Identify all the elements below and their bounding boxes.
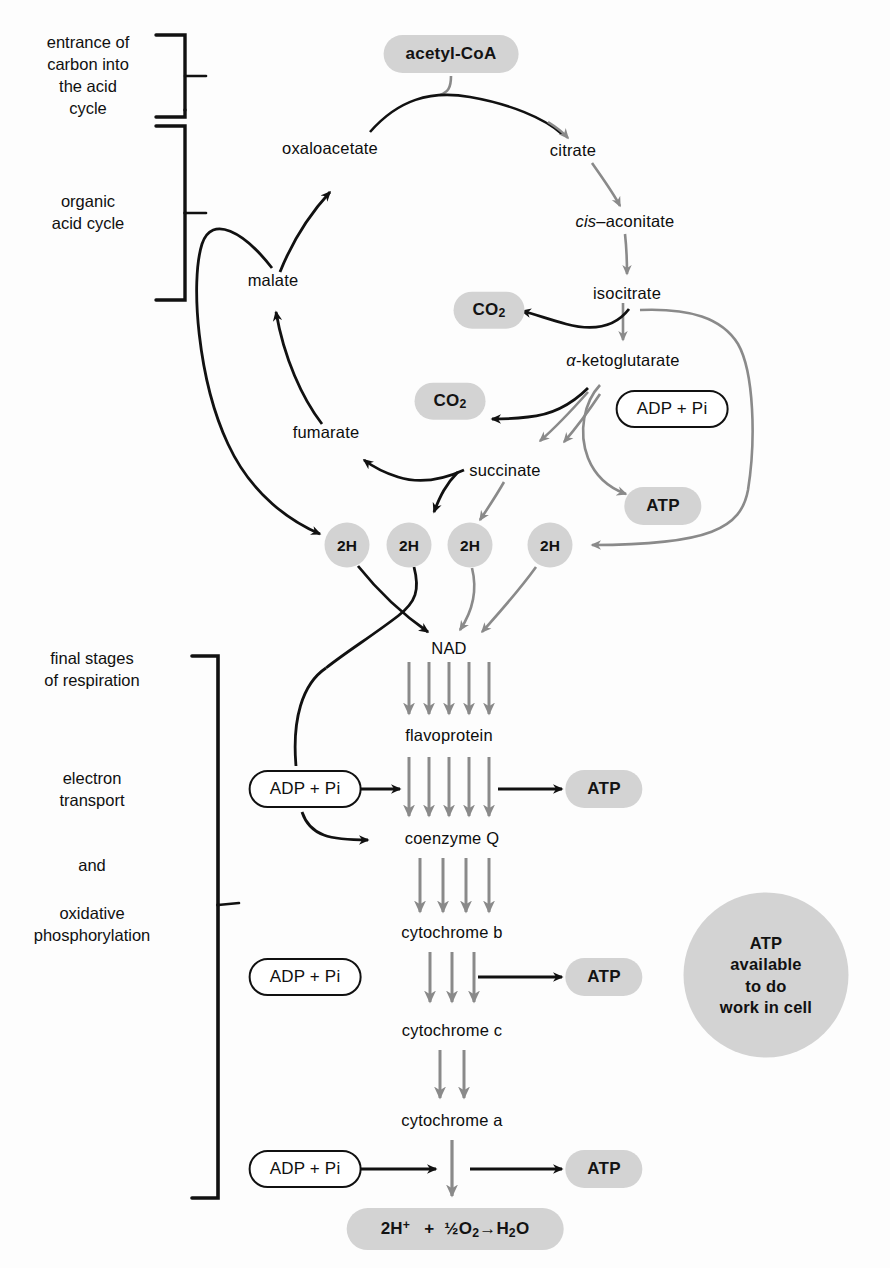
flavoprotein-label: flavoprotein	[405, 726, 493, 745]
cytochrome-b-label: cytochrome b	[401, 923, 502, 942]
cytochrome-c-label: cytochrome c	[402, 1021, 503, 1040]
citrate-label: citrate	[550, 141, 596, 160]
co2-lower-pill: CO2	[415, 383, 486, 420]
co2-lower-text: CO	[434, 391, 460, 410]
caption-electron-transport: electron transport	[59, 768, 124, 812]
cis-aconitate-label: cis–aconitate	[576, 212, 675, 231]
atp-pool-line-4: work in cell	[720, 996, 812, 1017]
h1-to-nad-arrow	[358, 566, 428, 632]
hydrogen-circle-1: 2H	[325, 523, 370, 568]
coq-to-cytb-arrows	[420, 858, 489, 912]
cycle-adp-pi-pill: ADP + Pi	[616, 390, 729, 428]
succinate-label: succinate	[469, 461, 541, 480]
cycle-atp-pill: ATP	[624, 487, 701, 525]
h2-tail-to-adp	[295, 668, 326, 766]
hydrogen-circle-3: 2H	[448, 523, 493, 568]
final-reaction-pill: 2H++½O2→H2O	[347, 1208, 564, 1250]
cisaconitate-to-isocitrate-arrow	[625, 234, 627, 274]
atp-pill-1: ATP	[565, 770, 642, 808]
h2-to-chain-arrow	[326, 567, 417, 668]
cytb-to-cytc-arrows	[430, 952, 474, 1002]
bracket-organic	[156, 126, 206, 300]
diagram-canvas: entrance of carbon into the acid cycle o…	[0, 0, 890, 1268]
caption-organic-acid-cycle: organic acid cycle	[52, 191, 124, 235]
oxaloacetate-to-citrate-arrow	[370, 95, 562, 134]
malate-label: malate	[248, 271, 299, 290]
atp-pill-2: ATP	[565, 958, 642, 996]
flavoprotein-to-coq-arrows	[409, 757, 489, 816]
bracket-final-stages	[192, 656, 239, 1198]
co2-upper-sub: 2	[498, 306, 505, 320]
cytochrome-a-label: cytochrome a	[401, 1111, 502, 1130]
hydrogen-circle-4: 2H	[528, 523, 573, 568]
ketoglutarate-to-succinate-arrow-a	[540, 392, 588, 441]
coenzyme-q-label: coenzyme Q	[405, 829, 500, 848]
final-h2o-o: O	[516, 1219, 529, 1238]
malate-to-oxaloacetate-arrow	[280, 192, 330, 272]
caption-final-stages: final stages of respiration	[44, 648, 139, 692]
nad-to-flavoprotein-arrows	[409, 662, 489, 714]
to-citrate-head	[548, 122, 568, 138]
alpha-symbol: α	[566, 351, 576, 369]
citrate-to-cisaconitate-arrow	[592, 163, 620, 206]
adp-pi-pill-1: ADP + Pi	[249, 770, 362, 808]
alpha-ketoglutarate-label: α-ketoglutarate	[566, 351, 679, 370]
bracket-entrance	[156, 35, 206, 117]
caption-entrance-of-carbon: entrance of carbon into the acid cycle	[47, 32, 130, 120]
atp-pill-3: ATP	[565, 1150, 642, 1188]
final-arrow: →	[479, 1219, 496, 1238]
acetylcoa-to-cycle-line	[440, 76, 451, 95]
co2-upper-text: CO	[473, 300, 499, 319]
adp1-to-coq-arrow	[302, 812, 368, 840]
isocitrate-label: isocitrate	[593, 284, 661, 303]
co2-lower-sub: 2	[459, 397, 466, 411]
ketoglutarate-suffix: -ketoglutarate	[576, 351, 680, 369]
caption-oxidative-phosphorylation: oxidative phosphorylation	[34, 903, 151, 947]
acetyl-coa-pill: acetyl-CoA	[384, 35, 519, 73]
final-h-count: 2H	[381, 1219, 403, 1238]
nad-label: NAD	[431, 639, 466, 658]
atp-pool-line-2: available	[730, 954, 802, 975]
fumarate-to-malate-arrow	[276, 312, 322, 424]
final-half: ½	[444, 1219, 458, 1238]
co2-upper-pill: CO2	[454, 292, 525, 329]
arrow-layer	[0, 0, 890, 1268]
ketoglutarate-to-co2-lower-arrow	[492, 388, 588, 419]
ketoglutarate-to-succinate-arrow-b	[564, 394, 600, 442]
final-h-charge: +	[403, 1218, 410, 1232]
fumarate-label: fumarate	[293, 423, 360, 442]
succinate-to-fumarate-arrow	[364, 460, 464, 481]
atp-pool-line-1: ATP	[750, 933, 782, 954]
final-h2o-h: H	[496, 1219, 508, 1238]
cis-aconitate-prefix: cis	[576, 212, 597, 230]
h3-to-nad-arrow	[460, 568, 474, 630]
cis-aconitate-suffix: –aconitate	[596, 212, 674, 230]
caption-and: and	[78, 855, 106, 877]
adp-pi-pill-3: ADP + Pi	[249, 1150, 362, 1188]
atp-pool-line-3: to do	[745, 975, 786, 996]
h4-to-nad-arrow	[482, 567, 536, 632]
final-plus: +	[424, 1219, 434, 1238]
cytc-to-cyta-arrows	[440, 1050, 464, 1098]
isocitrate-to-co2-upper-arrow	[522, 309, 629, 328]
succinate-to-2h-2-arrow	[434, 472, 458, 512]
adp-pi-pill-2: ADP + Pi	[249, 958, 362, 996]
atp-pool-circle: ATP available to do work in cell	[684, 893, 849, 1058]
hydrogen-circle-2: 2H	[387, 523, 432, 568]
oxaloacetate-label: oxaloacetate	[282, 139, 378, 158]
final-o: O	[459, 1219, 472, 1238]
succinate-to-2h-3-arrow	[480, 482, 504, 520]
